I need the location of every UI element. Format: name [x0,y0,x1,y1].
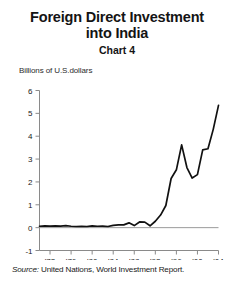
y-axis-tick-label: 0 [28,224,33,233]
y-axis-tick-label: 6 [28,87,33,96]
source-text: United Nations, World Investment Report. [41,265,184,274]
y-axis-tick-label: 2 [28,178,33,187]
x-axis-tick-label: '72 [45,257,56,261]
chart-plot-area: -10123456 '72'76'80'84'88'92'96'00'04 [0,60,234,260]
page-title-line-1: Foreign Direct Investment [0,9,234,25]
x-axis-tick-label: '84 [108,257,119,261]
y-axis-tick-label: -1 [25,247,33,256]
chart-figure: Foreign Direct Investment into India Cha… [0,0,234,298]
x-axis: '72'76'80'84'88'92'96'00'04 [40,251,225,261]
y-axis-tick-label: 3 [28,155,33,164]
y-axis-tick-label: 1 [28,201,33,210]
x-axis-tick-label: '96 [171,257,182,261]
x-axis-tick-label: '00 [192,257,203,261]
x-axis-tick-label: '80 [87,257,98,261]
source-note: Source: United Nations, World Investment… [12,265,184,274]
x-axis-tick-label: '88 [129,257,140,261]
chart-number-label: Chart 4 [0,44,234,57]
x-axis-tick-label: '76 [66,257,77,261]
page-title-line-2: into India [0,25,234,41]
y-axis-tick-label: 5 [28,109,33,118]
x-axis-tick-label: '92 [150,257,161,261]
title-block: Foreign Direct Investment into India Cha… [0,0,234,57]
y-axis: -10123456 [25,87,39,256]
data-series-line [40,105,219,226]
x-axis-tick-label: '04 [213,257,224,261]
y-axis-tick-label: 4 [28,132,33,141]
source-prefix: Source: [12,265,39,274]
